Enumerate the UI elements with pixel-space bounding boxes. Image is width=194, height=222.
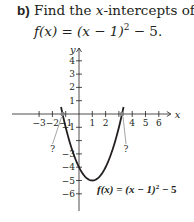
x-tick-label: 6 [156,118,162,128]
intercept-pointer [123,117,126,144]
x-axis-label: x [175,109,181,120]
x-intercept-marker [120,112,124,116]
unknown-intercept-label: ? [124,144,129,154]
unknown-intercept-label: ? [50,144,55,154]
function-label: f(x) = (x − 1)2 − 5 [97,183,177,196]
x-intercept-marker [60,112,64,116]
y-tick-label: −1 [62,122,75,132]
x-tick-label: 5 [143,118,149,128]
x-tick-label: 2 [103,118,109,128]
y-tick-label: 4 [69,56,75,66]
x-tick-label: −3 [32,118,46,128]
x-tick-label: −2 [46,118,59,128]
x-tick-label: 1 [89,118,95,128]
y-tick-label: −6 [62,189,76,199]
y-tick-label: 3 [69,69,75,79]
y-tick-label: 1 [69,96,75,106]
y-tick-label: 2 [69,82,75,92]
y-tick-label: −5 [62,176,76,186]
y-axis-label: y [69,44,76,55]
graph: xy−3−2−1124564321−1−3−4−5−6??f(x) = (x −… [0,0,194,222]
x-tick-label: 4 [129,118,135,128]
y-tick-label: −4 [62,162,76,172]
